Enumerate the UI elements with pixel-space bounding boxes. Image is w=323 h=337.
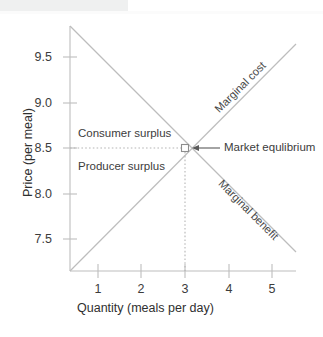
producer-surplus-label: Producer surplus bbox=[78, 161, 165, 173]
marginal-cost-line bbox=[70, 44, 296, 271]
x-axis-title: Quantity (meals per day) bbox=[77, 302, 214, 315]
supply-demand-equilibrium-figure: 9.5 9.0 8.5 8.0 7.5 1 2 3 4 5 Quantity (… bbox=[0, 0, 323, 337]
x-tick-label-4: 4 bbox=[219, 283, 239, 296]
y-tick-label-9-5: 9.5 bbox=[22, 51, 52, 64]
x-tick-label-5: 5 bbox=[262, 283, 282, 296]
market-equilibrium-label: Market equlibrium bbox=[224, 142, 315, 154]
x-tick-label-2: 2 bbox=[131, 283, 151, 296]
consumer-surplus-label: Consumer surplus bbox=[78, 128, 171, 140]
x-tick-label-3: 3 bbox=[175, 283, 195, 296]
equilibrium-callout-arrow bbox=[192, 145, 220, 151]
y-axis-title: Price (per meal) bbox=[22, 108, 35, 197]
y-tick-label-7-5: 7.5 bbox=[22, 233, 52, 246]
x-tick-label-1: 1 bbox=[88, 283, 108, 296]
equilibrium-marker bbox=[182, 145, 189, 152]
